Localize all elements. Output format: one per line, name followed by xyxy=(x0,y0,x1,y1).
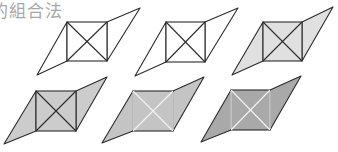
right-triangle xyxy=(205,8,238,62)
left-triangle xyxy=(37,22,67,75)
left-triangle xyxy=(102,91,133,143)
figure-6 xyxy=(201,76,301,142)
parallelogram-figures xyxy=(0,0,338,152)
right-triangle xyxy=(173,77,204,131)
right-triangle xyxy=(107,8,140,61)
figure-2 xyxy=(135,8,238,76)
right-triangle xyxy=(270,76,301,130)
right-triangle xyxy=(302,7,333,61)
figure-4 xyxy=(4,77,107,144)
figure-5 xyxy=(102,77,204,143)
figure-3 xyxy=(232,7,333,75)
right-triangle xyxy=(76,77,107,131)
left-triangle xyxy=(232,22,263,75)
left-triangle xyxy=(4,91,36,144)
figure-1 xyxy=(37,8,140,75)
left-triangle xyxy=(135,22,166,76)
left-triangle xyxy=(201,90,231,142)
